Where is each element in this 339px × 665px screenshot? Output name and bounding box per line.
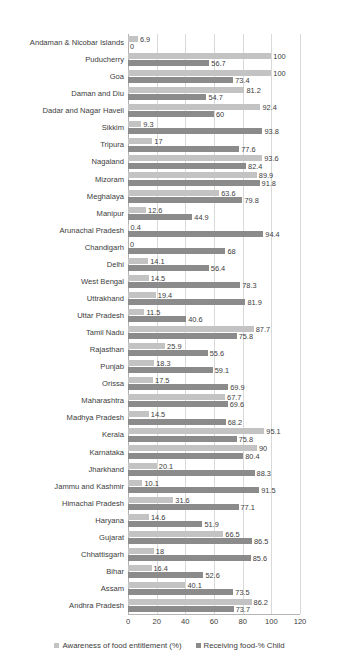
bar-receiving[interactable] xyxy=(128,384,228,390)
bar-receiving[interactable] xyxy=(128,487,259,493)
bar-row: 6.90 xyxy=(128,34,300,51)
bar-awareness[interactable] xyxy=(128,70,271,76)
bar-awareness[interactable] xyxy=(128,207,146,213)
bar-awareness[interactable] xyxy=(128,480,142,486)
bar-receiving[interactable] xyxy=(128,231,263,237)
bar-receiving[interactable] xyxy=(128,94,206,100)
bar-awareness[interactable] xyxy=(128,343,165,349)
bar-receiving[interactable] xyxy=(128,436,237,442)
bar-receiving[interactable] xyxy=(128,504,239,510)
bar-receiving[interactable] xyxy=(128,265,209,271)
bar-receiving-wrap: 88.3 xyxy=(128,470,300,476)
bar-value-label: 68 xyxy=(225,246,235,255)
bar-receiving[interactable] xyxy=(128,111,214,117)
bar-receiving[interactable] xyxy=(128,419,226,425)
bar-awareness[interactable] xyxy=(128,411,149,417)
bar-awareness[interactable] xyxy=(128,360,154,366)
bar-row: 67.769.6 xyxy=(128,392,300,409)
bar-row: 92.460 xyxy=(128,102,300,119)
bar-receiving[interactable] xyxy=(128,146,239,152)
bar-awareness[interactable] xyxy=(128,582,185,588)
bar-receiving-wrap: 60 xyxy=(128,111,300,117)
bar-value-label: 93.8 xyxy=(262,127,278,136)
bar-awareness[interactable] xyxy=(128,326,254,332)
bar-awareness[interactable] xyxy=(128,190,219,196)
bar-receiving[interactable] xyxy=(128,60,209,66)
bar-receiving[interactable] xyxy=(128,299,245,305)
bar-receiving[interactable] xyxy=(128,367,213,373)
x-tick-label: 40 xyxy=(181,617,189,626)
legend-swatch-icon xyxy=(196,643,201,648)
bar-awareness[interactable] xyxy=(128,309,144,315)
bar-awareness[interactable] xyxy=(128,258,148,264)
bar-receiving[interactable] xyxy=(128,77,233,83)
bar-value-label: 77.1 xyxy=(239,502,255,511)
bar-awareness[interactable] xyxy=(128,155,262,161)
bar-receiving[interactable] xyxy=(128,453,243,459)
bar-awareness-wrap: 63.6 xyxy=(128,190,300,196)
bar-awareness[interactable] xyxy=(128,87,244,93)
legend-item-receiving[interactable]: Receiving food-% Child xyxy=(196,641,285,650)
bar-receiving[interactable] xyxy=(128,606,234,612)
bar-receiving[interactable] xyxy=(128,521,202,527)
bar-receiving-wrap: 73.5 xyxy=(128,589,300,595)
bar-receiving[interactable] xyxy=(128,401,228,407)
bar-awareness[interactable] xyxy=(128,497,173,503)
bar-receiving[interactable] xyxy=(128,197,242,203)
bar-awareness[interactable] xyxy=(128,394,225,400)
bar-receiving[interactable] xyxy=(128,163,246,169)
x-tick-label: 80 xyxy=(238,617,246,626)
bar-awareness[interactable] xyxy=(128,121,141,127)
bar-receiving-wrap: 86.5 xyxy=(128,538,300,544)
bar-awareness[interactable] xyxy=(128,138,152,144)
category-label: Jammu and Kashmir xyxy=(0,478,124,495)
bar-awareness-wrap: 40.1 xyxy=(128,582,300,588)
bar-value-label: 86.2 xyxy=(252,598,268,607)
bar-awareness[interactable] xyxy=(128,548,154,554)
bar-row: 14.578.3 xyxy=(128,273,300,290)
category-label: Bihar xyxy=(0,563,124,580)
bar-awareness[interactable] xyxy=(128,377,153,383)
bar-value-label: 69.9 xyxy=(228,383,244,392)
bar-receiving[interactable] xyxy=(128,214,192,220)
bar-awareness[interactable] xyxy=(128,514,149,520)
bar-receiving[interactable] xyxy=(128,128,262,134)
bar-awareness[interactable] xyxy=(128,275,149,281)
bar-value-label: 40.6 xyxy=(186,315,202,324)
bar-value-label: 31.6 xyxy=(173,495,189,504)
bar-receiving[interactable] xyxy=(128,470,255,476)
bar-awareness[interactable] xyxy=(128,445,257,451)
bar-receiving[interactable] xyxy=(128,350,208,356)
bar-receiving[interactable] xyxy=(128,555,251,561)
bar-value-label: 10.1 xyxy=(142,478,158,487)
bar-value-label: 69.6 xyxy=(228,400,244,409)
bar-awareness[interactable] xyxy=(128,104,260,110)
legend-swatch-icon xyxy=(54,643,59,648)
bar-awareness[interactable] xyxy=(128,292,156,298)
bar-awareness[interactable] xyxy=(128,172,257,178)
bar-value-label: 0 xyxy=(128,239,134,248)
bar-value-label: 81.2 xyxy=(244,86,260,95)
bar-row: 10056.7 xyxy=(128,51,300,68)
bar-receiving[interactable] xyxy=(128,316,186,322)
bar-awareness[interactable] xyxy=(128,53,271,59)
bar-chart: Andaman & Nicobar IslandsPuducherryGoaDa… xyxy=(0,0,339,665)
bar-receiving[interactable] xyxy=(128,333,237,339)
bar-receiving[interactable] xyxy=(128,572,203,578)
bar-row: 63.679.8 xyxy=(128,188,300,205)
bar-row: 95.175.8 xyxy=(128,426,300,443)
bar-receiving[interactable] xyxy=(128,589,233,595)
bar-awareness[interactable] xyxy=(128,463,157,469)
bar-receiving[interactable] xyxy=(128,538,252,544)
bar-awareness-wrap: 18 xyxy=(128,548,300,554)
bar-awareness[interactable] xyxy=(128,565,152,571)
legend-item-awareness[interactable]: Awareness of food entitlement (%) xyxy=(54,641,181,650)
bar-value-label: 0.4 xyxy=(129,222,141,231)
bar-value-label: 91.5 xyxy=(259,485,275,494)
bar-awareness[interactable] xyxy=(128,531,223,537)
bar-receiving[interactable] xyxy=(128,248,225,254)
bar-awareness-wrap: 19.4 xyxy=(128,292,300,298)
bar-receiving[interactable] xyxy=(128,180,260,186)
bar-row: 81.254.7 xyxy=(128,85,300,102)
bar-receiving[interactable] xyxy=(128,282,240,288)
